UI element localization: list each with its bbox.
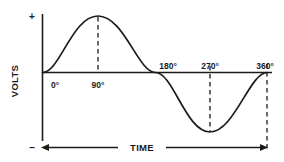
- tick-label-360-degrees: 360°: [256, 61, 274, 71]
- tick-label-0-degrees: 0°: [51, 80, 60, 90]
- tick-label-270-degrees: 270°: [201, 61, 219, 71]
- negative-sign-label: –: [29, 142, 35, 153]
- x-axis-title: TIME: [130, 142, 154, 153]
- sine-wave-figure: + – VOLTS TIME 0° 90° 180° 270° 360°: [0, 0, 284, 162]
- tick-label-90-degrees: 90°: [92, 80, 105, 90]
- tick-label-180-degrees: 180°: [159, 61, 177, 71]
- sine-wave-chart: + – VOLTS TIME 0° 90° 180° 270° 360°: [0, 0, 284, 162]
- positive-sign-label: +: [29, 11, 35, 22]
- y-axis-title: VOLTS: [9, 65, 20, 97]
